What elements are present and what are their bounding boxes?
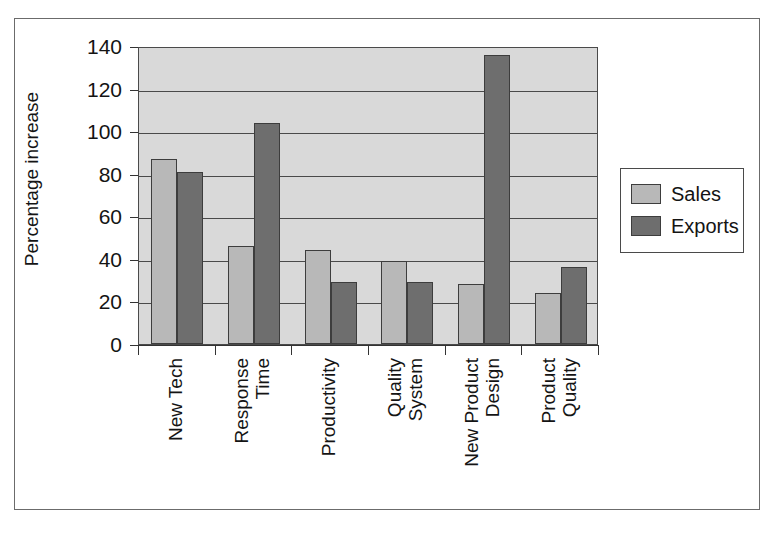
x-axis-tick — [368, 346, 369, 355]
bar-exports-5 — [561, 267, 587, 344]
bar-exports-3 — [407, 282, 433, 344]
x-axis-tick — [521, 346, 522, 355]
plot-area — [138, 47, 598, 345]
bar-sales-2 — [305, 250, 331, 344]
legend-swatch-sales — [631, 184, 661, 204]
y-axis-tick-label: 140 — [68, 36, 122, 57]
bar-sales-1 — [228, 246, 254, 344]
legend-label: Exports — [671, 215, 739, 238]
gridline — [139, 133, 597, 134]
bar-sales-5 — [535, 293, 561, 344]
chart-figure: Percentage increase 020406080100120140 N… — [0, 0, 780, 533]
legend-item-sales: Sales — [631, 178, 733, 210]
x-axis-tick — [138, 346, 139, 355]
bar-exports-2 — [331, 282, 357, 344]
bar-sales-4 — [458, 284, 484, 344]
y-axis-tick-label: 100 — [68, 121, 122, 142]
x-axis-category-label: ResponseTime — [232, 358, 274, 494]
gridline — [139, 218, 597, 219]
y-axis-tick-label: 60 — [68, 206, 122, 227]
y-axis-title: Percentage increase — [21, 49, 43, 309]
x-axis-tick — [445, 346, 446, 355]
category-label-line: System — [406, 358, 426, 421]
category-label-line: New Product — [462, 358, 482, 467]
x-axis-tick — [291, 346, 292, 355]
bar-sales-3 — [381, 261, 407, 344]
x-axis-tick — [215, 346, 216, 355]
category-label-line: Quality — [560, 358, 580, 417]
x-axis-category-label: New ProductDesign — [462, 358, 504, 494]
legend-swatch-exports — [631, 216, 661, 236]
category-label-line: Productivity — [319, 358, 339, 456]
bar-exports-1 — [254, 123, 280, 344]
category-label-line: Time — [253, 358, 273, 400]
category-label-line: Response — [232, 358, 252, 444]
x-axis-category-label: Productivity — [319, 358, 340, 494]
y-axis-tick-label: 120 — [68, 79, 122, 100]
x-axis-category-label: QualitySystem — [385, 358, 427, 494]
x-axis-category-label: ProductQuality — [539, 358, 581, 494]
legend: SalesExports — [620, 168, 744, 253]
gridline — [139, 303, 597, 304]
gridline — [139, 91, 597, 92]
y-axis-tick-label: 40 — [68, 249, 122, 270]
y-axis-tick-label: 80 — [68, 164, 122, 185]
x-axis-category-label: New Tech — [166, 358, 187, 494]
category-label-line: Quality — [385, 358, 405, 417]
category-label-line: Design — [483, 358, 503, 417]
bar-sales-0 — [151, 159, 177, 344]
legend-item-exports: Exports — [631, 210, 733, 242]
category-label-line: Product — [539, 358, 559, 423]
bar-exports-4 — [484, 55, 510, 344]
x-axis-tick — [598, 346, 599, 355]
category-label-line: New Tech — [166, 358, 186, 441]
legend-label: Sales — [671, 183, 721, 206]
y-axis-tick-label: 20 — [68, 291, 122, 312]
y-axis-tick-label: 0 — [68, 334, 122, 355]
gridline — [139, 261, 597, 262]
bar-exports-0 — [177, 172, 203, 344]
gridline — [139, 176, 597, 177]
